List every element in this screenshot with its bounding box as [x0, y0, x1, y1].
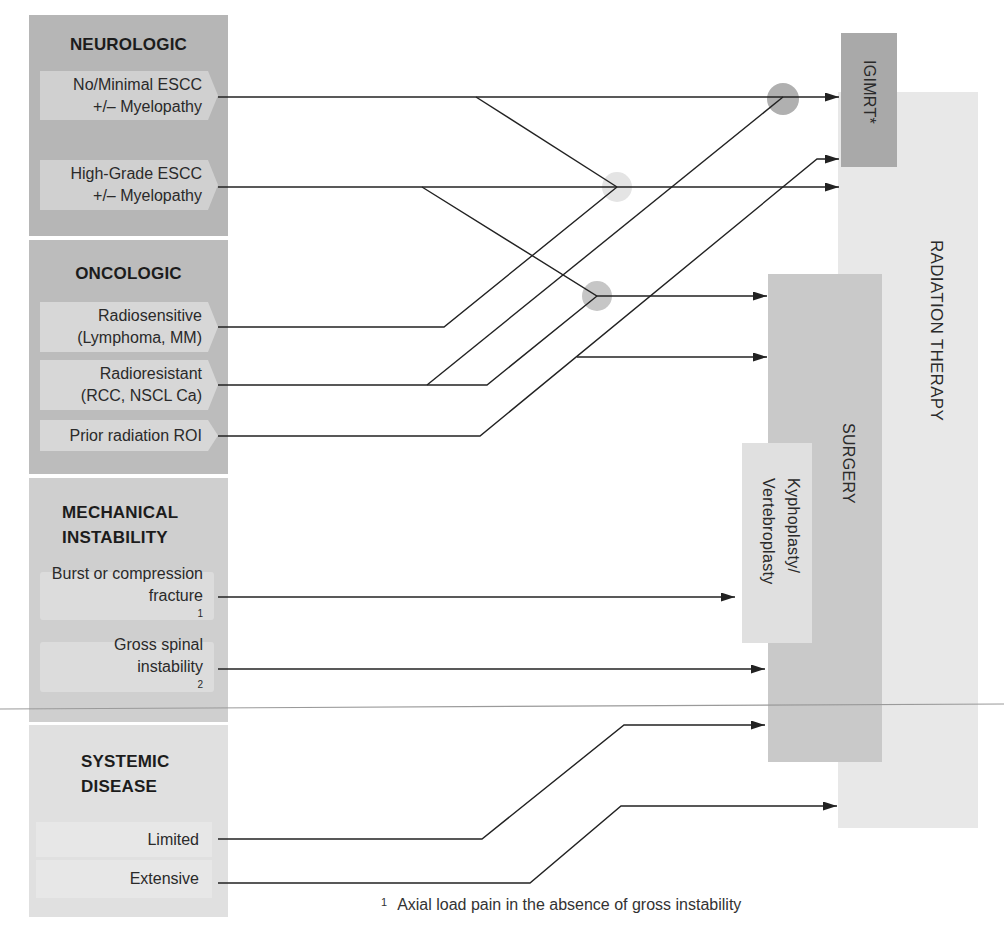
connector-limited-surgery [218, 725, 765, 839]
footnote-marker: 1 [381, 896, 387, 908]
connector-radioresistant-surgery [218, 296, 597, 385]
connector-radiosensitive [218, 187, 617, 327]
flow-connectors [0, 0, 1004, 932]
connector-nominimal-branch [476, 97, 617, 187]
connector-extensive-radiation [218, 806, 837, 883]
connector-radioresistant-igimrt [427, 97, 783, 385]
junction-dark-icon [767, 83, 799, 115]
connector-prior-radiation-igimrt [218, 159, 839, 436]
footnote-text: Axial load pain in the absence of gross … [397, 896, 741, 913]
connector-highgrade-surgery [422, 187, 767, 296]
section-divider [0, 704, 1004, 709]
footnote: 1Axial load pain in the absence of gross… [381, 896, 741, 914]
